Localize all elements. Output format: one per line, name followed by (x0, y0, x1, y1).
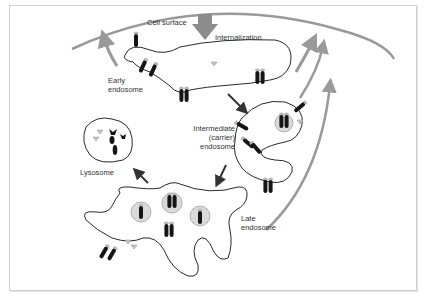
label-lysosome: Lysosome (80, 168, 114, 177)
pathway-arrow-intermediate-to-late (218, 165, 226, 182)
lysosome-contents (93, 129, 126, 155)
recycling-arrow-intermediate-2 (300, 46, 323, 98)
label-early-endosome: Early endosome (108, 76, 143, 94)
lysosome-membrane (84, 118, 133, 162)
label-cell-surface: Cell surface (147, 18, 187, 27)
pathway-arrow-late-to-lysosome (137, 172, 148, 183)
label-late-endosome: Late endosome (241, 214, 276, 232)
early-endosome-membrane (124, 40, 291, 93)
pathway-arrow-early-to-intermediate (228, 94, 244, 110)
vesicle (275, 114, 293, 132)
label-intermediate-endosome: Intermediate (carrier) endosome (185, 124, 235, 151)
label-internalization: Internalization (215, 33, 262, 42)
receptor-icon (134, 32, 266, 103)
recycling-arrow-early (104, 38, 117, 66)
recycling-arrow-intermediate-1 (296, 41, 313, 72)
vesicle (162, 193, 182, 213)
